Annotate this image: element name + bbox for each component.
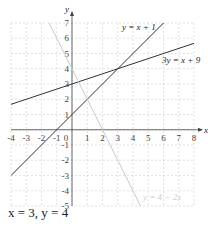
y-tick-label: 6 — [65, 33, 70, 43]
answer-text: x = 3, y = 4 — [8, 205, 68, 221]
x-tick-label: -3 — [23, 133, 31, 143]
y-tick-label: 2 — [65, 94, 70, 104]
x-axis-label: x — [203, 125, 208, 135]
x-tick-label: -2 — [38, 133, 46, 143]
x-axis-arrow-icon — [198, 128, 203, 132]
x-tick-label: 4 — [131, 133, 136, 143]
line-label-1: y = x + 1 — [121, 22, 156, 32]
y-axis-label: y — [64, 4, 69, 14]
x-tick-label: 8 — [192, 133, 197, 143]
x-tick-label: 1 — [85, 133, 90, 143]
y-tick-label: -3 — [62, 171, 70, 181]
line-label-3: y = 4 − 2x — [142, 192, 181, 202]
chart: xy-4-3-2-1012345678-5-4-3-2-11234567y = … — [0, 0, 208, 226]
line-label-2: 3y = x + 9 — [161, 55, 201, 65]
y-axis-arrow-icon — [70, 11, 74, 16]
y-tick-label: 7 — [65, 18, 70, 28]
x-tick-label: -1 — [53, 133, 61, 143]
y-tick-label: 3 — [65, 79, 70, 89]
y-tick-label: -4 — [62, 186, 70, 196]
y-tick-label: 4 — [65, 64, 70, 74]
x-tick-label: -4 — [7, 133, 15, 143]
x-tick-label: 6 — [161, 133, 166, 143]
x-tick-label: 3 — [116, 133, 121, 143]
y-tick-label: 5 — [65, 49, 70, 59]
x-tick-label: 2 — [100, 133, 105, 143]
y-tick-label: -2 — [62, 155, 70, 165]
x-tick-label: 7 — [177, 133, 182, 143]
x-tick-label: 5 — [146, 133, 151, 143]
y-tick-label: -1 — [62, 140, 70, 150]
